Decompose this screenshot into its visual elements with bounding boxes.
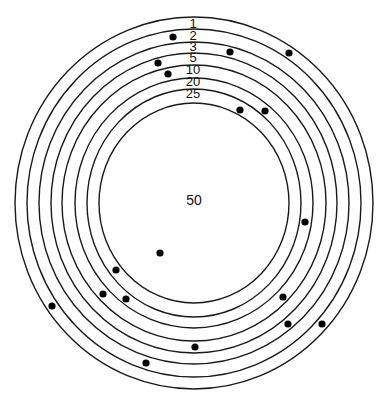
data-dot xyxy=(285,49,292,56)
data-dot xyxy=(279,293,286,300)
data-dot xyxy=(226,48,233,55)
data-dot xyxy=(318,320,325,327)
data-dot xyxy=(154,59,161,66)
data-dot xyxy=(284,320,291,327)
data-dot xyxy=(301,218,308,225)
data-dot xyxy=(169,33,176,40)
center-label: 50 xyxy=(186,192,202,208)
data-dot xyxy=(142,359,149,366)
data-dot xyxy=(156,249,163,256)
data-dot xyxy=(122,295,129,302)
data-dot xyxy=(99,290,106,297)
data-dot xyxy=(164,70,171,77)
ring-label: 25 xyxy=(186,86,200,101)
data-dot xyxy=(112,266,119,273)
data-dot xyxy=(48,302,55,309)
data-dot xyxy=(261,107,268,114)
data-dot xyxy=(191,343,198,350)
data-dot xyxy=(236,106,243,113)
concentric-ring-diagram: 1235102025 50 xyxy=(0,0,389,404)
